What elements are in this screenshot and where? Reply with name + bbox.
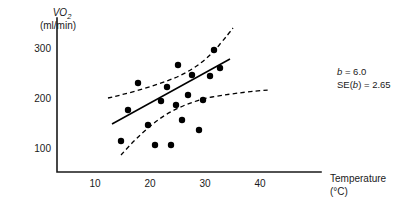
- chart-figure: 300 200 100 10 20 30 40 VO2 (ml/min) Tem…: [0, 0, 405, 215]
- data-point: [164, 84, 170, 90]
- lower-confidence-band: [121, 90, 268, 155]
- data-point: [185, 92, 191, 98]
- data-point: [173, 102, 179, 108]
- scatter-plot-svg: 300 200 100 10 20 30 40 VO2 (ml/min) Tem…: [0, 0, 405, 215]
- data-point: [200, 97, 206, 103]
- data-point: [207, 73, 213, 79]
- y-tick-label-100: 100: [34, 143, 51, 154]
- data-point: [175, 62, 181, 68]
- x-axis-units: (°C): [330, 186, 348, 197]
- data-point: [211, 47, 217, 53]
- y-axis-units: (ml/min): [40, 20, 76, 31]
- data-point: [179, 117, 185, 123]
- data-point: [118, 138, 124, 144]
- data-point: [152, 142, 158, 148]
- data-point: [145, 122, 151, 128]
- data-point: [125, 107, 131, 113]
- se-prefix: SE(: [337, 79, 354, 90]
- y-axis-title: VO2: [53, 7, 72, 21]
- data-point: [196, 127, 202, 133]
- x-axis-title: Temperature: [330, 173, 387, 184]
- slope-annotation: b = 6.0: [337, 66, 366, 77]
- y-tick-label-300: 300: [34, 43, 51, 54]
- upper-confidence-band: [108, 28, 233, 98]
- data-point: [135, 80, 141, 86]
- standard-error-annotation: SE(b) = 2.65: [337, 79, 391, 90]
- x-tick-label-20: 20: [144, 178, 156, 189]
- y-axis-title-symbol: VO: [53, 7, 68, 18]
- slope-value: = 6.0: [342, 66, 366, 77]
- se-value: ) = 2.65: [358, 79, 390, 90]
- data-point: [168, 142, 174, 148]
- data-point: [158, 98, 164, 104]
- data-point: [217, 65, 223, 71]
- x-tick-label-10: 10: [89, 178, 101, 189]
- regression-fit-line: [112, 59, 230, 124]
- data-point: [189, 72, 195, 78]
- x-tick-label-40: 40: [254, 178, 266, 189]
- x-tick-label-30: 30: [199, 178, 211, 189]
- y-tick-label-200: 200: [34, 93, 51, 104]
